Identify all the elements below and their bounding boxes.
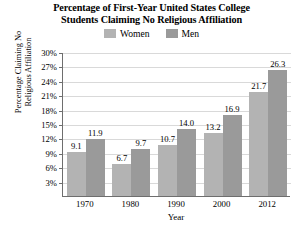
x-axis-tick-label: 1980 xyxy=(122,199,140,209)
bar-men-1990[interactable] xyxy=(177,129,196,196)
bar-chart: Percentage of First-Year United States C… xyxy=(0,0,303,234)
y-axis-tick-label: 21% xyxy=(41,92,57,101)
bar-group: 21.726.3 xyxy=(249,52,287,196)
x-axis-tick-label: 2012 xyxy=(258,199,276,209)
bar-women-1990[interactable] xyxy=(158,145,177,196)
bar-men-1970[interactable] xyxy=(86,139,105,196)
y-axis-tick-label: 15% xyxy=(41,121,57,130)
bar-holder: 6.7 xyxy=(112,52,131,196)
bar-value-label: 6.7 xyxy=(117,154,128,163)
chart-legend: WomenMen xyxy=(0,28,303,39)
bar-men-2000[interactable] xyxy=(223,115,242,196)
bar-value-label: 26.3 xyxy=(270,60,285,69)
chart-title-line-1: Percentage of First-Year United States C… xyxy=(53,2,250,13)
bar-groups: 9.111.96.79.710.714.013.216.921.726.3 xyxy=(63,52,291,196)
chart-title-line-2: Students Claiming No Religious Affiliati… xyxy=(0,14,303,26)
bar-group: 10.714.0 xyxy=(158,52,196,196)
bar-value-label: 21.7 xyxy=(251,82,266,91)
y-axis-title-line-2: Religious Affiliation xyxy=(24,0,34,146)
y-axis-tick-label: 24% xyxy=(41,77,57,86)
y-axis-tick-label: 12% xyxy=(41,135,57,144)
legend-entry-women[interactable]: Women xyxy=(104,28,150,39)
bar-women-1970[interactable] xyxy=(67,152,86,196)
bar-holder: 9.1 xyxy=(67,52,86,196)
x-axis-tick-label: 2000 xyxy=(213,199,231,209)
bar-women-2000[interactable] xyxy=(204,133,223,196)
legend-swatch-icon xyxy=(166,29,178,38)
bar-holder: 9.7 xyxy=(131,52,150,196)
bar-value-label: 10.7 xyxy=(160,135,175,144)
x-axis-tick-label: 1970 xyxy=(76,199,94,209)
bar-women-2012[interactable] xyxy=(249,92,268,196)
y-axis-tick-label: 27% xyxy=(41,63,57,72)
bar-value-label: 11.9 xyxy=(88,129,103,138)
y-axis-tick-label: 3% xyxy=(46,178,57,187)
bar-value-label: 9.7 xyxy=(136,139,147,148)
bar-value-label: 16.9 xyxy=(225,105,240,114)
chart-title: Percentage of First-Year United States C… xyxy=(0,2,303,26)
bar-holder: 11.9 xyxy=(86,52,105,196)
legend-label: Men xyxy=(182,28,200,39)
bar-group: 13.216.9 xyxy=(204,52,242,196)
legend-swatch-icon xyxy=(104,29,116,38)
y-axis-tick-label: 6% xyxy=(46,164,57,173)
x-axis-tick-labels: 19701980199020002012 xyxy=(62,199,290,209)
x-axis-tick-label: 1990 xyxy=(167,199,185,209)
bar-group: 6.79.7 xyxy=(112,52,150,196)
bar-men-2012[interactable] xyxy=(268,70,287,196)
bar-value-label: 13.2 xyxy=(206,123,221,132)
bar-group: 9.111.9 xyxy=(67,52,105,196)
x-axis-title: Year xyxy=(62,212,290,222)
bar-value-label: 9.1 xyxy=(71,142,82,151)
legend-entry-men[interactable]: Men xyxy=(166,28,200,39)
bar-holder: 13.2 xyxy=(204,52,223,196)
bar-holder: 21.7 xyxy=(249,52,268,196)
y-axis-tick-label: 18% xyxy=(41,106,57,115)
y-axis-tick-label: 9% xyxy=(46,149,57,158)
y-axis-title: Percentage Claiming No Religious Affilia… xyxy=(14,0,42,146)
legend-label: Women xyxy=(120,28,150,39)
y-axis-tick-label: 30% xyxy=(41,49,57,58)
bar-holder: 26.3 xyxy=(268,52,287,196)
plot-area: 3%6%9%12%15%18%21%24%27%30% 9.111.96.79.… xyxy=(62,53,290,197)
bar-holder: 16.9 xyxy=(223,52,242,196)
bar-holder: 14.0 xyxy=(177,52,196,196)
bar-women-1980[interactable] xyxy=(112,164,131,196)
bar-holder: 10.7 xyxy=(158,52,177,196)
bar-men-1980[interactable] xyxy=(131,149,150,196)
y-axis-title-line-1: Percentage Claiming No xyxy=(14,31,23,113)
bar-value-label: 14.0 xyxy=(179,119,194,128)
